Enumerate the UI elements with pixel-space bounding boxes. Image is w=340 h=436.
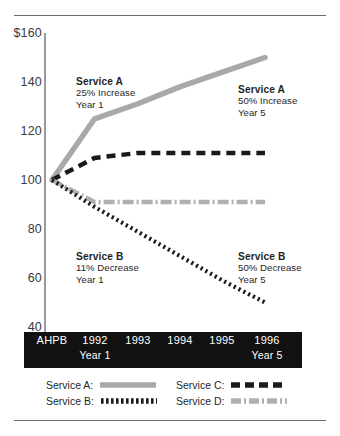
annotation-line2: Year 5 [238, 274, 302, 285]
annotation-heading: Service A [238, 84, 297, 95]
annotation-service-b-year1: Service B 11% Decrease Year 1 [76, 251, 139, 285]
annotation-line2: Year 1 [76, 99, 135, 110]
annotation-line1: 25% Increase [76, 87, 135, 98]
annotation-line1: 11% Decrease [76, 262, 139, 273]
annotation-service-b-year5: Service B 50% Decrease Year 5 [238, 251, 302, 285]
series-line-service-c [52, 153, 265, 180]
legend-item-service-c: Service C: [176, 378, 287, 391]
series-line-service-d [52, 180, 265, 202]
x-label-1993: 1993 [125, 334, 150, 346]
x-label-1992: 1992 [82, 334, 107, 346]
annotation-service-a-year5: Service A 50% Increase Year 5 [238, 84, 297, 118]
annotation-heading: Service A [76, 76, 135, 87]
legend-swatch-service-b [101, 396, 157, 406]
bottom-divider [14, 420, 326, 421]
x-axis-band: AHPB 1992 1993 1994 1995 1996 Year 1 Yea… [24, 332, 302, 368]
x-label-1996: 1996 [254, 334, 279, 346]
legend-label: Service A: [46, 379, 93, 391]
annotation-line1: 50% Decrease [238, 262, 302, 273]
annotation-line2: Year 1 [76, 274, 139, 285]
x-label-1995: 1995 [209, 334, 234, 346]
series-canvas [0, 18, 340, 338]
annotation-line2: Year 5 [238, 107, 297, 118]
annotation-heading: Service B [76, 251, 139, 262]
legend-swatch-service-a [100, 380, 156, 390]
legend-label: Service B: [46, 395, 94, 407]
plot-area: $160 140 120 100 80 60 40 Service A 25% … [0, 18, 340, 338]
chart-page: $160 140 120 100 80 60 40 Service A 25% … [0, 0, 340, 436]
x-sublabel-year1: Year 1 [79, 349, 110, 361]
annotation-heading: Service B [238, 251, 302, 262]
annotation-line1: 50% Increase [238, 95, 297, 106]
top-divider [14, 15, 326, 16]
x-sublabel-year5: Year 5 [251, 349, 282, 361]
legend-swatch-service-c [231, 380, 287, 390]
x-label-1994: 1994 [167, 334, 192, 346]
legend-item-service-b: Service B: [46, 394, 157, 407]
legend-item-service-d: Service D: [176, 394, 287, 407]
legend-label: Service D: [176, 395, 224, 407]
chart-title [40, 0, 260, 10]
chart-legend: Service A: Service B: Service C: Service… [0, 378, 340, 418]
annotation-service-a-year1: Service A 25% Increase Year 1 [76, 76, 135, 110]
legend-label: Service C: [176, 379, 224, 391]
x-label-ahpb: AHPB [37, 334, 68, 346]
legend-item-service-a: Service A: [46, 378, 156, 391]
legend-swatch-service-d [231, 396, 287, 406]
